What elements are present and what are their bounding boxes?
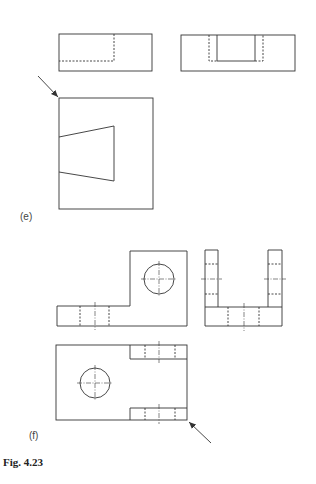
figure-caption: Fig. 4.23 (3, 456, 43, 468)
label-e: (e) (20, 211, 32, 222)
fig-f-side-view (201, 250, 286, 331)
fig-f-front-view (57, 251, 187, 330)
fig-f-plan-view (56, 341, 187, 424)
fig-f-view-arrow (189, 422, 211, 443)
fig-e-side-view (181, 35, 295, 71)
fig-e-front-view (59, 34, 152, 71)
label-f: (f) (29, 430, 38, 441)
fig-e-plan-view (59, 98, 153, 209)
orthographic-drawing (0, 0, 316, 484)
fig-e-view-arrow (38, 76, 58, 97)
